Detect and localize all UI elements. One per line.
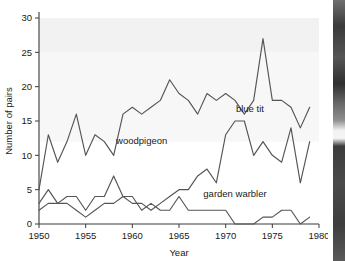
x-tick-label: 1960 <box>122 230 143 241</box>
y-axis-title: Number of pairs <box>3 87 14 155</box>
y-tick-label: 5 <box>27 184 32 195</box>
x-axis-title: Year <box>169 247 188 258</box>
series-line-garden-warbler <box>39 176 310 224</box>
y-tick-label: 15 <box>21 115 32 126</box>
x-tick-label: 1965 <box>168 230 189 241</box>
x-tick-label: 1975 <box>262 230 283 241</box>
y-tick-label: 20 <box>21 81 32 92</box>
y-tick-label: 0 <box>27 218 32 229</box>
line-chart: 0510152025301950195519601965197019751980… <box>0 0 328 261</box>
figure-root: 0510152025301950195519601965197019751980… <box>0 0 345 261</box>
plot-background <box>39 18 319 142</box>
y-tick-label: 10 <box>21 150 32 161</box>
series-label-garden-warbler: garden warbler <box>203 188 266 199</box>
series-label-blue-tit: blue tit <box>236 103 264 114</box>
x-tick-label: 1980 <box>308 230 328 241</box>
chart-svg: 0510152025301950195519601965197019751980… <box>0 0 328 261</box>
adjacent-page-edge <box>333 0 345 261</box>
y-tick-label: 25 <box>21 47 32 58</box>
y-tick-label: 30 <box>21 12 32 23</box>
x-tick-label: 1970 <box>215 230 236 241</box>
series-label-woodpigeon: woodpigeon <box>115 135 167 146</box>
x-tick-label: 1955 <box>75 230 96 241</box>
x-tick-label: 1950 <box>28 230 49 241</box>
